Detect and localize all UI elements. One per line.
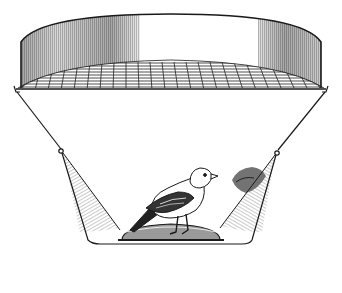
funnel-sides [17, 92, 325, 155]
left-ring [59, 149, 63, 153]
right-ring [275, 151, 279, 155]
top-cylinder [21, 14, 321, 90]
illustration [0, 0, 342, 293]
trap-illustration [0, 0, 342, 293]
